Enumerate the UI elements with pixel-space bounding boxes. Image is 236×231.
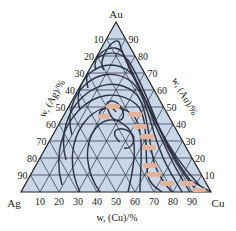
tick-label: 40 — [65, 85, 75, 96]
tick-label: 30 — [186, 136, 196, 147]
tick-label: 50 — [56, 102, 66, 113]
axis-label-cu: w, (Cu)/% — [96, 212, 137, 224]
axis-label-ag: w, (Ag)/% — [37, 78, 68, 120]
tick-label: 10 — [35, 196, 45, 207]
vertex-label-ag: Ag — [7, 197, 21, 209]
tick-label: 70 — [149, 196, 159, 207]
tick-label: 30 — [73, 196, 83, 207]
tick-label: 50 — [167, 102, 177, 113]
vertex-label-cu: Cu — [212, 197, 225, 209]
tick-label: 60 — [46, 119, 56, 130]
tick-label: 90 — [187, 196, 197, 207]
tick-label: 10 — [94, 34, 104, 45]
tick-label: 20 — [195, 153, 205, 164]
tick-label: 60 — [130, 196, 140, 207]
ternary-diagram: Au Ag Cu 1020304050607080909080706050403… — [0, 0, 236, 231]
tick-label: 70 — [37, 136, 47, 147]
vertex-label-au: Au — [109, 8, 123, 20]
tick-label: 30 — [75, 68, 85, 79]
tick-label: 60 — [157, 85, 167, 96]
tick-label: 90 — [18, 170, 28, 181]
tick-label: 80 — [27, 153, 37, 164]
tick-label: 90 — [129, 34, 139, 45]
tick-label: 50 — [111, 196, 121, 207]
tick-label: 20 — [84, 51, 94, 62]
tick-label: 80 — [138, 51, 148, 62]
tick-label: 10 — [205, 170, 215, 181]
tick-label: 20 — [54, 196, 64, 207]
tick-label: 80 — [168, 196, 178, 207]
tick-label: 40 — [92, 196, 102, 207]
tick-label: 70 — [148, 68, 158, 79]
tick-label: 40 — [176, 119, 186, 130]
